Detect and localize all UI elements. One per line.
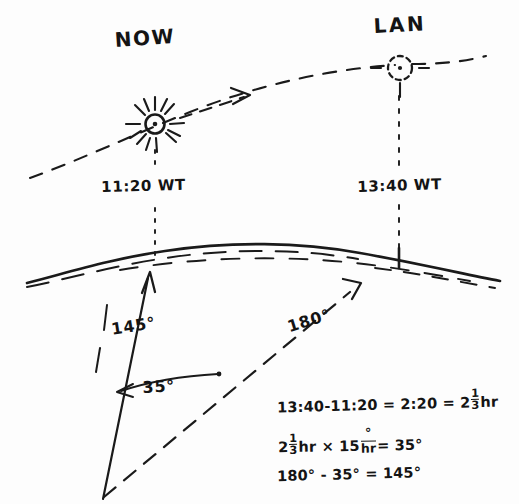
label-time-lan: 13:40 WT [357, 175, 442, 196]
calc-line-1-fraction: 13 [471, 388, 480, 412]
calc-line-1-unit: hr [480, 394, 498, 410]
calc-line-2-lead: 2 [278, 439, 289, 455]
label-lan: LAN [373, 11, 427, 38]
calc-line-2: 213hr × 15°hr= 35° [278, 424, 517, 457]
calc-line-2-rate: °hr [360, 426, 376, 454]
label-time-now: 11:20 WT [101, 176, 186, 196]
sun-dashed-icon [371, 56, 429, 97]
earth-horizon-curve [27, 244, 500, 288]
sun-path-dashed-arc [30, 56, 486, 178]
calc-line-1: 13:40-11:20 = 2:20 = 213hr [277, 387, 518, 417]
label-angle-35: 35° [142, 376, 176, 397]
calc-line-2-mid: hr × 15 [298, 437, 360, 454]
angle-marker-145 [96, 305, 107, 372]
sun-icon [126, 97, 184, 152]
calc-line-2-result: = 35° [377, 436, 423, 453]
label-now: NOW [114, 24, 176, 52]
calculation-block: 13:40-11:20 = 2:20 = 213hr 213hr × 15°hr… [277, 390, 517, 481]
calc-line-1-lhs: 13:40-11:20 = 2:20 = 2 [277, 394, 471, 415]
calc-line-2-fraction: 13 [289, 432, 297, 456]
sketch-canvas: NOW LAN 11:20 WT 13:40 WT 145° 35° 180° … [0, 0, 519, 504]
